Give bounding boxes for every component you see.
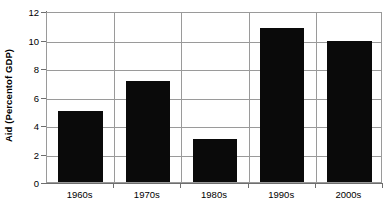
bar	[58, 111, 102, 182]
y-axis-tickmark	[41, 155, 46, 156]
x-axis-tick-label: 1970s	[134, 189, 160, 200]
y-axis-title-label: Aid (Percentof GDP)	[4, 48, 15, 141]
y-axis-tick-label: 0	[34, 178, 39, 189]
y-axis-tick-label: 12	[28, 7, 39, 18]
x-axis-tick-label: 1990s	[268, 189, 294, 200]
bars-layer	[47, 13, 381, 182]
x-axis-tickmark	[382, 183, 383, 188]
y-axis-tick-labels: 024681012	[18, 12, 42, 183]
x-axis-tickmark	[248, 183, 249, 188]
y-axis-tick-label: 6	[34, 92, 39, 103]
x-axis-line	[41, 183, 383, 184]
y-axis-tickmark	[41, 126, 46, 127]
y-axis-tickmark	[41, 69, 46, 70]
bar	[327, 41, 371, 182]
y-axis-tick-label: 8	[34, 64, 39, 75]
y-axis-tickmark	[41, 12, 46, 13]
plot-area	[46, 12, 382, 183]
x-axis-tickmark	[180, 183, 181, 188]
y-axis-tickmark	[41, 41, 46, 42]
x-axis-tick-label: 1980s	[201, 189, 227, 200]
bar	[126, 81, 170, 182]
x-axis-tick-labels: 1960s1970s1980s1990s2000s	[46, 189, 382, 205]
y-axis-tick-label: 2	[34, 149, 39, 160]
x-axis-tick-label: 2000s	[335, 189, 361, 200]
x-axis-tick-label: 1960s	[67, 189, 93, 200]
y-axis-tickmark	[41, 183, 46, 184]
y-axis-tick-label: 10	[28, 35, 39, 46]
bar-chart: Aid (Percentof GDP) 024681012 1960s1970s…	[0, 0, 392, 207]
bar	[193, 139, 237, 182]
x-axis-tickmark	[113, 183, 114, 188]
y-axis-tick-label: 4	[34, 121, 39, 132]
y-axis-tickmark	[41, 98, 46, 99]
x-axis-tickmark	[315, 183, 316, 188]
bar	[260, 28, 304, 182]
y-axis-title: Aid (Percentof GDP)	[0, 0, 18, 190]
